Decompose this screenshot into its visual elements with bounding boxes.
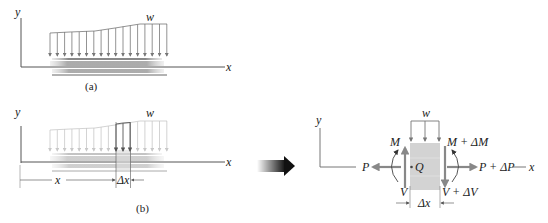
- caption-a: (a): [85, 80, 98, 93]
- part-a: y x w (a): [14, 5, 232, 93]
- dim-dx-label: Δx: [116, 173, 130, 187]
- y-axis-label: y: [14, 5, 21, 19]
- load-label: w: [422, 106, 430, 120]
- point-q-label: Q: [415, 160, 424, 174]
- shear-left-label: V: [400, 185, 409, 199]
- arrow-right-icon: [257, 156, 295, 176]
- axial-force-left-label: P: [361, 160, 370, 174]
- beam-lower: [52, 69, 164, 73]
- dim-x-label: x: [54, 173, 61, 187]
- point-q: [410, 166, 413, 169]
- segment-load-arrows: [116, 123, 130, 152]
- shear-right-label: V + ΔV: [442, 185, 479, 199]
- load-arrows: [50, 121, 167, 151]
- x-axis-label: x: [528, 160, 535, 174]
- beam-diagram: y x w (a): [0, 0, 548, 223]
- moment-right-label: M + ΔM: [446, 135, 489, 149]
- y-axis-label: y: [14, 105, 21, 119]
- free-body-diagram: y w Q P P + ΔP x V V + ΔV M: [315, 106, 535, 210]
- beam-lower: [52, 164, 164, 168]
- element-load: [411, 121, 439, 141]
- load-label: w: [146, 106, 154, 120]
- width-label: Δx: [417, 196, 431, 210]
- segment-highlight: [116, 150, 131, 172]
- beam-web: [50, 156, 164, 161]
- beam-top: [52, 153, 162, 155]
- load-label: w: [146, 10, 154, 24]
- beam-web: [50, 61, 164, 66]
- x-axis-label: x: [225, 155, 232, 169]
- x-axis-label: x: [225, 60, 232, 74]
- part-b-beam: y x: [14, 105, 232, 215]
- beam-top: [52, 58, 162, 60]
- y-axis-label: y: [315, 113, 322, 127]
- caption-b: (b): [136, 202, 149, 215]
- moment-left-label: M: [389, 135, 401, 149]
- axial-force-right-label: P + ΔP: [478, 160, 515, 174]
